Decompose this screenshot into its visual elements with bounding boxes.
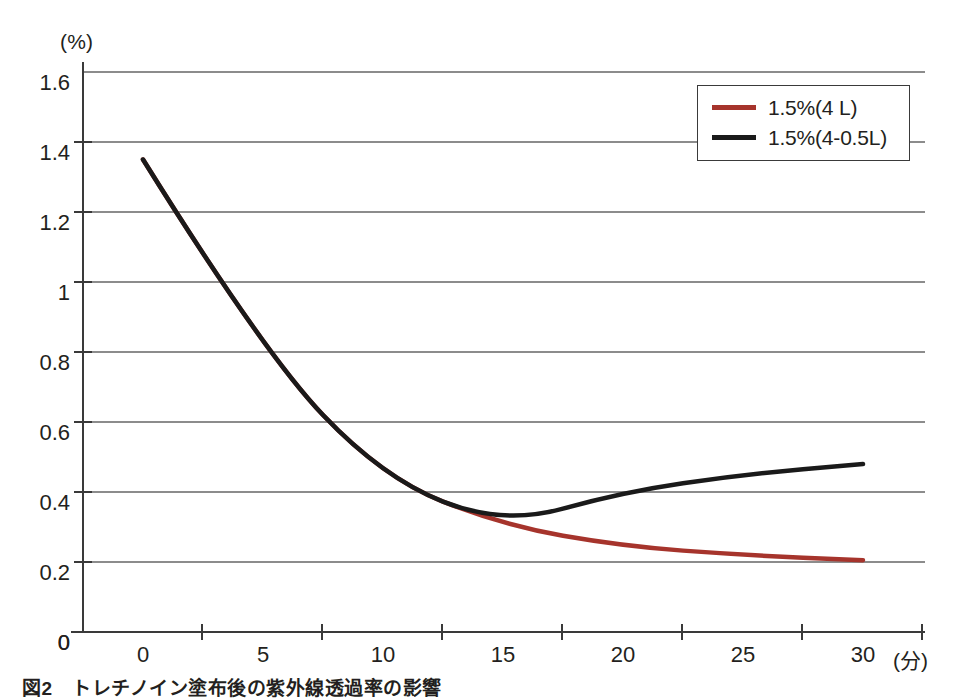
- legend-swatch-black-icon: [712, 135, 756, 140]
- series-line-black: [143, 160, 863, 516]
- chart-legend: 1.5%(4 L) 1.5%(4-0.5L): [697, 85, 910, 161]
- legend-item-black: 1.5%(4-0.5L): [698, 122, 909, 152]
- legend-label-black: 1.5%(4-0.5L): [768, 127, 887, 148]
- legend-item-red: 1.5%(4 L): [698, 92, 909, 122]
- legend-swatch-red-icon: [712, 105, 756, 110]
- series-line-red: [143, 160, 863, 561]
- data-series-group: [143, 160, 863, 561]
- legend-label-red: 1.5%(4 L): [768, 97, 857, 118]
- figure-caption: 図2 トレチノイン塗布後の紫外線透過率の影響: [22, 678, 442, 700]
